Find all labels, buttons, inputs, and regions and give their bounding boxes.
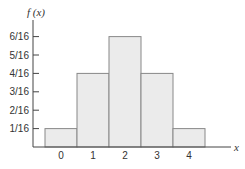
y-tick-label: 1/16 <box>10 123 30 134</box>
y-tick-label: 4/16 <box>10 68 30 79</box>
histogram-chart: 1/162/163/164/165/166/16 01234 f (x) x <box>0 0 245 169</box>
x-tick-label: 3 <box>154 150 160 161</box>
bars <box>45 37 205 147</box>
x-tick-label: 1 <box>90 150 96 161</box>
x-tick-label: 2 <box>122 150 128 161</box>
y-ticks: 1/162/163/164/165/166/16 <box>10 31 39 134</box>
bar-1 <box>77 73 109 147</box>
bar-0 <box>45 129 77 147</box>
y-tick-label: 2/16 <box>10 105 30 116</box>
bar-4 <box>173 129 205 147</box>
x-ticks: 01234 <box>58 150 192 161</box>
bar-2 <box>109 37 141 147</box>
x-tick-label: 4 <box>186 150 192 161</box>
x-tick-label: 0 <box>58 150 64 161</box>
y-axis-label: f (x) <box>27 6 45 19</box>
x-axis-label: x <box>233 141 239 153</box>
y-tick-label: 6/16 <box>10 31 30 42</box>
bar-3 <box>141 73 173 147</box>
y-tick-label: 3/16 <box>10 86 30 97</box>
y-tick-label: 5/16 <box>10 50 30 61</box>
